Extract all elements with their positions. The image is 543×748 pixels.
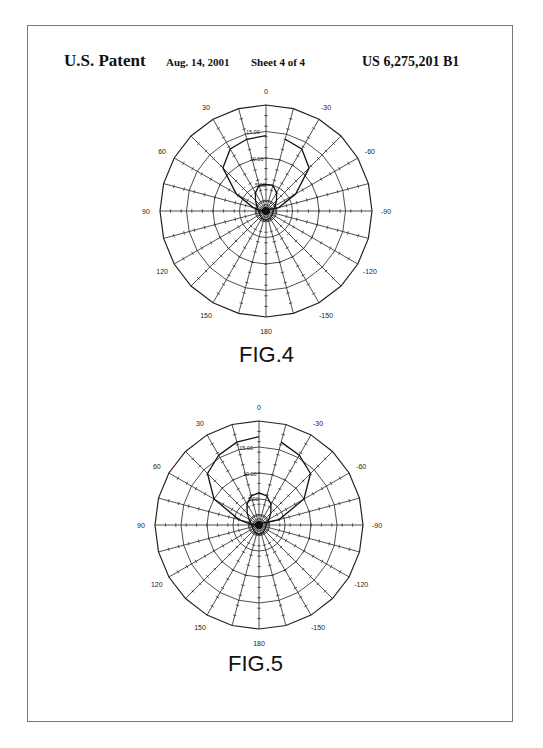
fig4-angle-label: -90 (381, 208, 391, 215)
fig5-tick (289, 531, 290, 535)
fig4-center-dot (262, 207, 270, 215)
fig4-angle-label: 90 (142, 208, 150, 215)
fig5-radial-label: 10.00 (243, 471, 257, 477)
fig4-tick (286, 292, 290, 293)
fig4-angle-label: 180 (260, 328, 272, 335)
fig5-tick (241, 585, 245, 586)
fig4-tick (204, 193, 205, 197)
fig4-tick (214, 196, 215, 200)
fig5-radial-label: 15.00 (239, 445, 253, 451)
fig4-tick (286, 129, 290, 130)
fig4-angle-label: 60 (158, 148, 166, 155)
fig4-tick (245, 282, 248, 283)
fig5-tick (208, 510, 209, 514)
fig4-tick (173, 234, 174, 237)
fig4-tick (273, 180, 277, 181)
fig4-tick (225, 220, 226, 224)
fig5-tick (282, 615, 286, 616)
fig4-angle-label: -150 (319, 312, 333, 319)
fig5-tick (299, 534, 300, 538)
fig5-tick (263, 545, 267, 546)
fig5-tick (241, 464, 245, 465)
fig5-tick (238, 595, 242, 596)
fig5-tick (329, 542, 330, 546)
fig4-tick (214, 223, 215, 227)
fig5-tick (260, 515, 263, 516)
fig4-tick (337, 190, 338, 193)
fig5-angle-label: 30 (196, 420, 204, 427)
fig4-tick (225, 198, 226, 202)
fig4-tick (270, 190, 274, 191)
fig5-tick (236, 605, 240, 606)
fig4-tick (358, 185, 359, 188)
fig5-tick (273, 585, 277, 586)
fig4-tick (273, 241, 277, 242)
fig5-tick (228, 515, 229, 519)
fig4-angle-label: -30 (321, 104, 331, 111)
fig5-tick (233, 615, 237, 616)
fig4-angle-label: -120 (363, 268, 377, 275)
fig5-tick (244, 575, 248, 576)
fig4-tick (289, 118, 292, 119)
fig4-tick (194, 190, 195, 193)
fig5-tick (238, 529, 239, 533)
fig4-tick (275, 252, 279, 253)
fig5-tick (282, 434, 286, 435)
fig4-tick (286, 215, 287, 219)
fig5-tick (247, 484, 251, 485)
fig4-tick (278, 262, 282, 263)
fig5-tick (228, 531, 229, 535)
fig4-tick (173, 185, 174, 188)
fig5-tick (168, 499, 169, 503)
fig5-tick (198, 507, 199, 511)
fig5-tick (299, 513, 300, 517)
fig5-tick (263, 504, 267, 505)
fig5-tick (309, 537, 310, 541)
fig5-tick (339, 545, 340, 549)
fig5-tick (188, 542, 189, 546)
fig5-tick (339, 502, 340, 506)
fig5-angle-label: -120 (354, 581, 368, 588)
fig4-angle-label: -60 (365, 148, 375, 155)
fig5-angle-label: 180 (253, 640, 265, 647)
fig5-tick (271, 575, 275, 576)
fig4-tick (281, 272, 285, 273)
fig4-tick (267, 200, 271, 201)
fig5-angle-label: 60 (153, 463, 161, 470)
fig5-tick (268, 565, 272, 566)
fig4-angle-label: 30 (202, 104, 210, 111)
fig5-caption: FIG.5 (228, 651, 283, 677)
fig4-tick (327, 226, 328, 230)
fig4-tick (317, 223, 318, 227)
fig5-angle-label: -90 (372, 522, 382, 529)
fig5-angle-label: -150 (311, 624, 325, 631)
fig4-tick (240, 118, 243, 119)
fig4-tick (235, 218, 236, 222)
fig5-angle-label: -60 (356, 463, 366, 470)
fig4-tick (337, 229, 338, 232)
fig4-tick (235, 201, 236, 205)
fig4-tick (259, 190, 263, 191)
fig4-angle-label: 120 (156, 268, 168, 275)
fig5-tick (319, 507, 320, 511)
fig5-tick (349, 499, 350, 503)
fig4-tick (245, 215, 246, 219)
polar-plots: 0-30-60-90-120-1501801501209060300.005.0… (0, 0, 543, 748)
fig5-tick (329, 504, 330, 508)
fig5-angle-label: -30 (313, 420, 323, 427)
fig5-tick (265, 555, 269, 556)
fig4-tick (251, 262, 255, 263)
fig4-tick (253, 170, 256, 171)
fig5-tick (178, 545, 179, 549)
fig5-tick (208, 537, 209, 541)
fig4-tick (184, 187, 185, 191)
fig5-tick (319, 539, 320, 543)
fig5-tick (309, 510, 310, 514)
fig5-tick (188, 504, 189, 508)
fig4-angle-label: 0 (264, 88, 268, 95)
fig4-tick (307, 220, 308, 224)
fig4-tick (248, 149, 252, 150)
fig4-tick (194, 229, 195, 232)
fig4-tick (284, 282, 287, 283)
fig4-tick (253, 252, 256, 253)
